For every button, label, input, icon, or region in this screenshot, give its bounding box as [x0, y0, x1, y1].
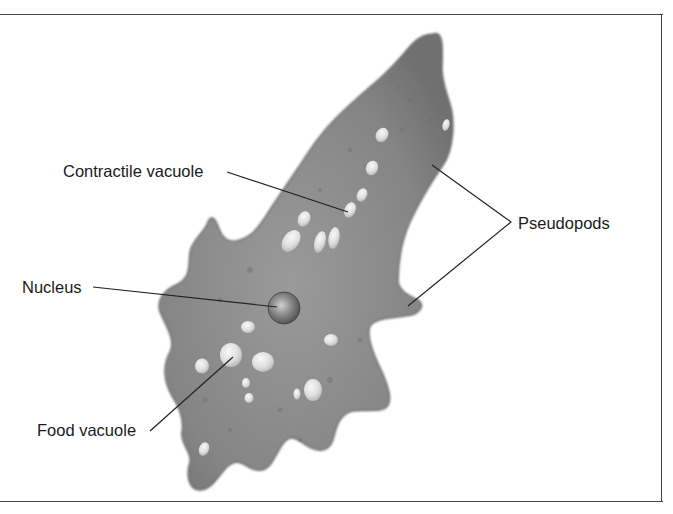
food-vacuole [220, 343, 242, 367]
label-nucleus: Nucleus [22, 279, 82, 296]
amoeba-diagram: Contractile vacuole Nucleus Food vacuole… [0, 0, 673, 514]
label-food-vacuole: Food vacuole [37, 422, 136, 439]
nucleus [268, 292, 300, 324]
label-pseudopods: Pseudopods [518, 215, 610, 232]
label-contractile-vacuole: Contractile vacuole [63, 163, 203, 180]
